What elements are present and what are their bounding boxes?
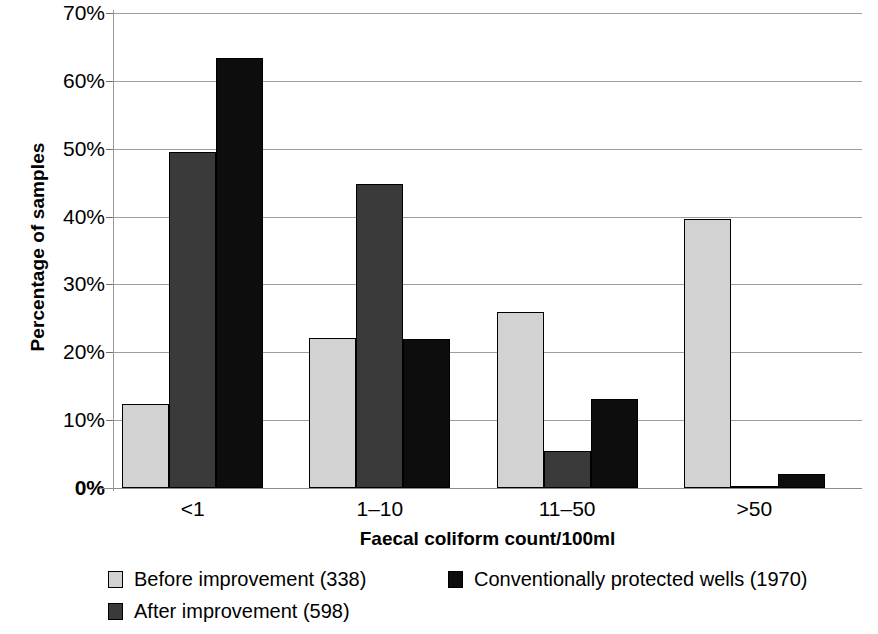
bar	[778, 474, 825, 488]
bar	[216, 58, 263, 488]
x-axis-tick-label: 11–50	[467, 497, 668, 521]
y-axis-tick	[106, 81, 113, 82]
x-axis-tick-labels: <11–1011–50>50	[113, 497, 862, 527]
bars-layer	[113, 13, 862, 488]
y-axis-tick-label: 40%	[5, 206, 105, 227]
y-axis-tick	[106, 420, 113, 421]
bar	[544, 451, 591, 488]
bar	[731, 486, 778, 488]
y-axis-tick-label: 50%	[5, 138, 105, 159]
bar-chart: Percentage of samples 0%10%20%30%40%50%6…	[0, 0, 878, 634]
legend-item-before-improvement: Before improvement (338)	[108, 568, 366, 590]
bar	[356, 184, 403, 488]
legend-swatch-black-icon	[448, 571, 463, 588]
legend-item-after-improvement: After improvement (598)	[108, 600, 350, 622]
legend-swatch-light-gray-icon	[108, 571, 123, 588]
bar	[122, 404, 169, 488]
bar	[591, 399, 638, 488]
y-axis-tick	[106, 13, 113, 14]
y-axis-tick-label: 60%	[5, 70, 105, 91]
y-axis-tick	[106, 217, 113, 218]
legend-label: Before improvement (338)	[134, 568, 366, 590]
y-axis-tick-label: 30%	[5, 273, 105, 294]
y-axis-tick-label: 10%	[5, 409, 105, 430]
legend-item-conventionally-protected-wells: Conventionally protected wells (1970)	[448, 568, 808, 590]
x-axis-tick-label: >50	[654, 497, 855, 521]
bar	[309, 338, 356, 488]
y-axis-tick-label: 20%	[5, 341, 105, 362]
legend-swatch-dark-gray-icon	[108, 603, 123, 620]
legend-label: After improvement (598)	[134, 600, 350, 622]
y-axis-tick	[106, 352, 113, 353]
y-axis-tick-label: 70%	[5, 2, 105, 23]
legend-label: Conventionally protected wells (1970)	[474, 568, 808, 590]
y-axis-tick-labels: 0%10%20%30%40%50%60%70%	[0, 0, 105, 500]
x-axis-line	[100, 488, 862, 489]
y-axis-tick-label: 0%	[5, 477, 105, 498]
x-axis-title: Faecal coliform count/100ml	[113, 528, 862, 550]
bar	[497, 312, 544, 488]
y-axis-tick	[106, 284, 113, 285]
bar	[403, 339, 450, 488]
chart-legend: Before improvement (338) After improveme…	[108, 566, 878, 630]
bar	[684, 219, 731, 488]
y-axis-tick	[106, 149, 113, 150]
x-axis-tick-label: 1–10	[279, 497, 480, 521]
x-axis-tick-label: <1	[92, 497, 293, 521]
bar	[169, 152, 216, 488]
